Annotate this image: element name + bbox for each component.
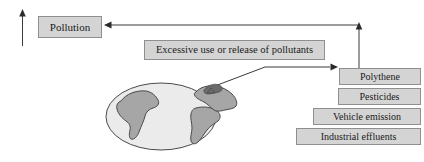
node-source-industrial-effluents[interactable]: Industrial effluents (296, 128, 421, 145)
node-source-polythene[interactable]: Polythene (339, 68, 421, 85)
earth-globe-icon (106, 83, 237, 150)
up-arrow-left-icon (19, 9, 26, 46)
diagram-canvas: Pollution Excessive use or release of po… (0, 0, 424, 162)
node-source-vehicle-emission[interactable]: Vehicle emission (313, 108, 421, 125)
node-source-pesticides[interactable]: Pesticides (338, 88, 421, 105)
globe-to-sources-arrow-icon (199, 64, 338, 92)
node-source-polythene-label: Polythene (360, 72, 400, 82)
node-pollution-label: Pollution (50, 22, 90, 33)
node-pollution[interactable]: Pollution (38, 16, 102, 38)
node-source-pesticides-label: Pesticides (360, 92, 400, 102)
sources-to-pollution-arrow-icon (104, 22, 359, 29)
node-excessive-use-label: Excessive use or release of pollutants (156, 45, 313, 56)
sources-up-arrow-icon (356, 22, 363, 70)
node-source-vehicle-emission-label: Vehicle emission (333, 112, 401, 122)
node-excessive-use[interactable]: Excessive use or release of pollutants (144, 40, 325, 60)
node-source-industrial-effluents-label: Industrial effluents (321, 132, 397, 142)
